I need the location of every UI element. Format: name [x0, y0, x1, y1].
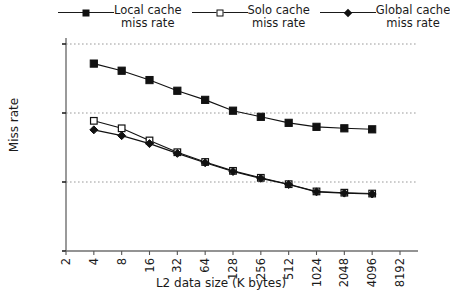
x-axis-tick-label: 4 [87, 258, 101, 265]
x-axis-tick-label: 8 [115, 258, 129, 265]
x-axis-title: L2 data size (K bytes) [0, 276, 442, 290]
y-axis-title: Miss rate [7, 85, 21, 165]
x-axis-tick-label: 2 [59, 258, 73, 265]
x-axis-tick-label: 64 [198, 258, 212, 273]
x-axis-tick-label: 32 [170, 258, 184, 273]
x-axis-tick-label: 16 [143, 258, 157, 273]
